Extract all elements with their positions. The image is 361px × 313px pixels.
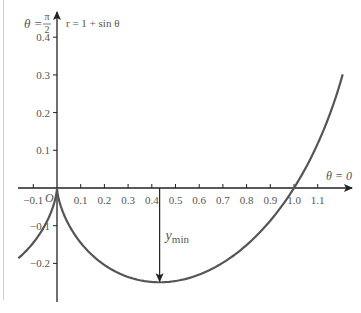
svg-text:θ =: θ = (24, 16, 42, 31)
origin-label: O (45, 191, 54, 205)
x-axis-label: θ = 0 (326, 169, 352, 183)
x-tick-label: 0.6 (192, 194, 206, 206)
x-tick-label: 0.9 (263, 194, 277, 206)
x-tick-label: 0.4 (145, 194, 159, 206)
x-tick-label: 0.7 (216, 194, 230, 206)
y-tick-label: −0.2 (30, 257, 50, 269)
svg-text:π: π (44, 11, 49, 22)
x-tick-label: 0.5 (169, 194, 183, 206)
y-tick-label: 0.3 (36, 69, 50, 81)
svg-text:2: 2 (45, 24, 50, 35)
curve-label: r = 1 + sin θ (66, 17, 119, 29)
polar-curve-chart: −0.10.10.20.30.40.50.60.70.80.91.01.10.4… (0, 0, 361, 313)
curve-line (18, 74, 342, 282)
x-tick-label: 0.1 (74, 194, 88, 206)
x-tick-label: 0.8 (240, 194, 254, 206)
ymin-label: ymin (164, 228, 190, 245)
x-tick-label: 0.3 (121, 194, 135, 206)
x-tick-label: 0.2 (98, 194, 112, 206)
y-tick-label: 0.2 (36, 107, 50, 119)
x-tick-label: −0.1 (23, 194, 43, 206)
axes (18, 12, 352, 302)
y-tick-label: 0.1 (36, 144, 50, 156)
axis-labels: Oθ = 0θ =π2r = 1 + sin θ (24, 11, 352, 205)
x-tick-label: 1.1 (311, 194, 325, 206)
